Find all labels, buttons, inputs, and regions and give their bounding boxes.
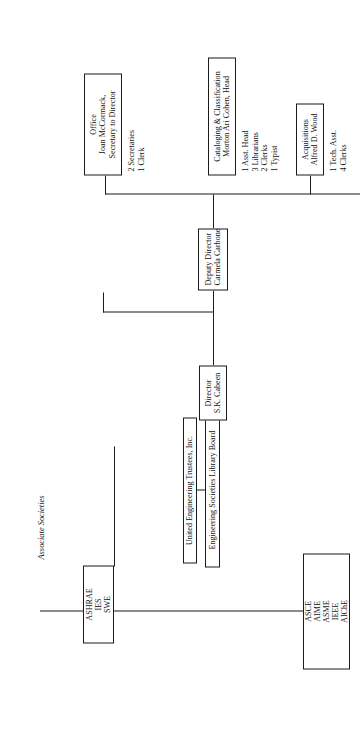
office-person-line2: Secretary to Director <box>108 78 117 170</box>
founder-society-aime: AIME <box>313 558 322 664</box>
cataloging-staff-item: 2 Clerks <box>260 130 270 171</box>
office-staff-item: 1 Clerk <box>137 129 147 171</box>
connector-founder-to-trustees <box>40 610 303 611</box>
office-staff-item: 2 Secretaries <box>127 129 137 171</box>
associate-society-ies: IES <box>94 570 103 638</box>
founder-society-aiche: AIChE <box>340 558 349 664</box>
connector-to-cataloging <box>105 175 106 194</box>
director-box: Director S.K. Cabeen <box>199 365 227 420</box>
library-board-title: Engineering Societies Library Board <box>208 417 217 562</box>
connector-director-trunk <box>213 312 214 365</box>
founder-society-asme: ASME <box>322 558 331 664</box>
cataloging-staff-item: 1 Typist <box>270 130 280 171</box>
associate-society-swe: SWE <box>103 570 112 638</box>
library-board-box: Engineering Societies Library Board <box>205 412 220 567</box>
director-person: S.K. Cabeen <box>213 370 222 415</box>
acquisitions-staff: 1 Tech. Asst. 4 Clerks <box>329 129 348 171</box>
connector-director-vertical <box>103 311 214 312</box>
office-box: Office Joan McCormack, Secretary to Dire… <box>84 73 122 175</box>
connector-department-trunk <box>105 193 360 194</box>
cataloging-staff: 1 Asst. Head 3 Librarians 2 Clerks 1 Typ… <box>241 130 279 171</box>
acquisitions-box: Acquisitions Alfred D. Wood <box>296 103 324 175</box>
united-engineering-trustees-box: United Engineering Trustees, Inc. <box>183 417 197 563</box>
trustees-title: United Engineering Trustees, Inc. <box>185 422 194 558</box>
office-staff: 2 Secretaries 1 Clerk <box>127 129 146 171</box>
connector-to-acquisitions <box>310 175 311 194</box>
associate-society-ashrae: ASHRAE <box>85 570 94 638</box>
connector-to-deputy <box>213 290 214 312</box>
cataloging-staff-item: 3 Librarians <box>251 130 261 171</box>
acquisitions-staff-item: 1 Tech. Asst. <box>329 129 339 171</box>
associate-societies-label: Associate Societies <box>37 495 46 559</box>
cataloging-title: Cataloging & Classification <box>213 62 222 170</box>
associate-societies-box: ASHRAE IES SWE <box>83 565 114 643</box>
deputy-director-title: Deputy Director <box>204 233 213 285</box>
cataloging-classification-box: Cataloging & Classification Morton Ari C… <box>208 57 236 175</box>
deputy-director-person: Carmela Carbone <box>213 233 222 285</box>
cataloging-staff-item: 1 Asst. Head <box>241 130 251 171</box>
office-person-line1: Joan McCormack, <box>98 78 107 170</box>
acquisitions-person: Alfred D. Wood <box>310 108 319 170</box>
org-chart-canvas: Associate Societies ASCE AIME ASME IEEE … <box>0 0 360 737</box>
founder-society-ieee: IEEE <box>331 558 340 664</box>
founder-societies-box: ASCE AIME ASME IEEE AIChE <box>303 553 350 669</box>
acquisitions-title: Acquisitions <box>301 108 310 170</box>
director-title: Director <box>204 370 213 415</box>
cataloging-person: Morton Ari Cohen, Head <box>222 62 231 170</box>
connector-associate-societies <box>114 446 115 566</box>
connector-to-office <box>103 292 104 312</box>
office-title: Office <box>89 78 98 170</box>
founder-society-ascе: ASCE <box>304 558 313 664</box>
deputy-director-box: Deputy Director Carmela Carbone <box>198 228 228 290</box>
connector-deputy-out <box>213 194 214 228</box>
acquisitions-staff-item: 4 Clerks <box>339 129 349 171</box>
